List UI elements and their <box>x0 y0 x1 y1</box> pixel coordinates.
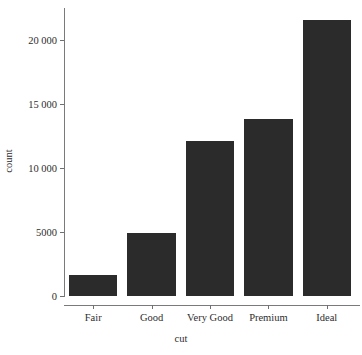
x-axis-line <box>64 305 360 306</box>
bar-chart: 0500010 00015 00020 000 FairGoodVery Goo… <box>0 0 362 355</box>
x-axis-title: cut <box>0 333 362 345</box>
x-tick-label: Good <box>122 312 180 324</box>
bar-premium <box>244 119 292 296</box>
y-tick <box>60 232 64 233</box>
y-axis-title: count <box>3 126 15 196</box>
x-tick-label: Very Good <box>181 312 239 324</box>
x-tick-label: Fair <box>64 312 122 324</box>
x-tick <box>93 305 94 309</box>
x-tick <box>327 305 328 309</box>
bar-good <box>127 233 175 296</box>
x-tick-label: Premium <box>239 312 297 324</box>
y-tick <box>60 40 64 41</box>
bar-ideal <box>303 20 351 296</box>
y-tick <box>60 296 64 297</box>
y-tick <box>60 168 64 169</box>
x-tick <box>152 305 153 309</box>
y-tick <box>60 104 64 105</box>
y-tick-label: 15 000 <box>0 99 57 110</box>
x-tick <box>268 305 269 309</box>
y-tick-label: 0 <box>0 291 57 302</box>
x-tick <box>210 305 211 309</box>
y-tick-label: 20 000 <box>0 35 57 46</box>
x-tick-label: Ideal <box>298 312 356 324</box>
y-tick-label: 5000 <box>0 227 57 238</box>
bar-very-good <box>186 141 234 296</box>
bar-fair <box>69 275 117 296</box>
